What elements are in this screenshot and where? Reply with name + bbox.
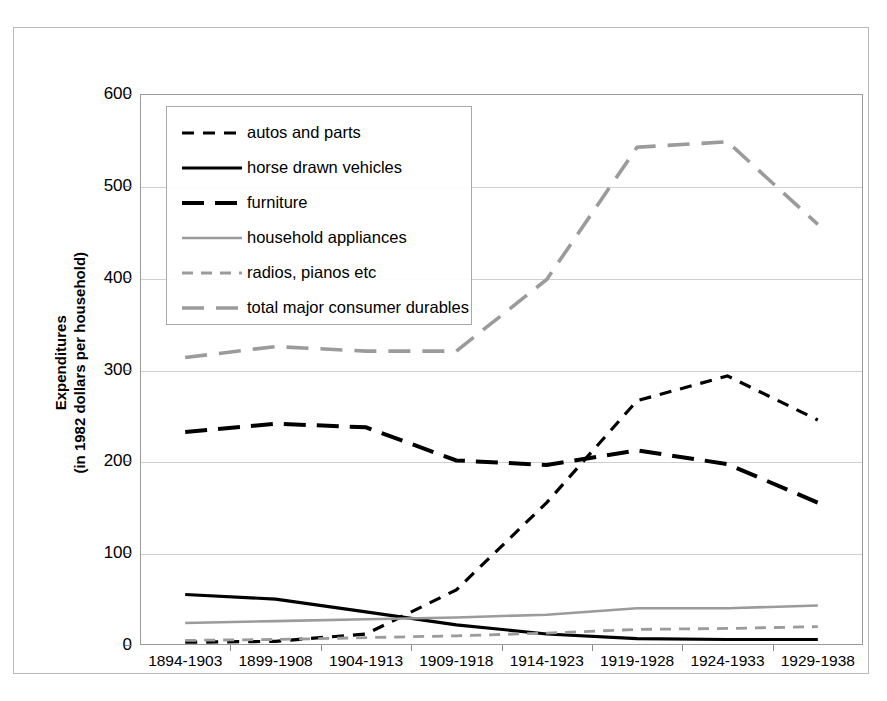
x-axis-tick-mark xyxy=(773,645,774,651)
y-axis-tick-label: 100 xyxy=(72,543,132,563)
x-axis-labels: 1894-19031899-19081904-19131909-19181914… xyxy=(140,652,863,682)
gridline xyxy=(141,462,862,463)
x-axis-tick-marks xyxy=(140,645,863,652)
legend-label: autos and parts xyxy=(247,123,361,142)
legend-label: total major consumer durables xyxy=(247,298,469,317)
chart-legend: autos and partshorse drawn vehiclesfurni… xyxy=(166,106,472,325)
legend-swatch-icon xyxy=(181,232,243,244)
y-axis-tick-mark xyxy=(125,370,132,371)
figure-container: Expenditures (in 1982 dollars per househ… xyxy=(13,27,869,674)
gridline xyxy=(141,554,862,555)
y-axis-tick-label: 0 xyxy=(72,635,132,655)
legend-item: total major consumer durables xyxy=(167,290,471,325)
legend-item: household appliances xyxy=(167,220,471,255)
legend-label: furniture xyxy=(247,193,308,212)
legend-item: furniture xyxy=(167,185,471,220)
x-axis-tick-mark xyxy=(502,645,503,651)
legend-swatch-icon xyxy=(181,127,243,139)
legend-swatch-icon xyxy=(181,302,243,314)
gridline xyxy=(141,371,862,372)
x-axis-tick-label: 1929-1938 xyxy=(781,652,855,670)
y-axis-tick-mark xyxy=(125,553,132,554)
x-axis-tick-label: 1919-1928 xyxy=(600,652,674,670)
y-axis-tick-mark xyxy=(125,94,132,95)
x-axis-tick-mark xyxy=(321,645,322,651)
x-axis-tick-mark xyxy=(411,645,412,651)
y-axis-tick-mark xyxy=(125,186,132,187)
x-axis-tick-mark xyxy=(230,645,231,651)
legend-swatch-icon xyxy=(181,197,243,209)
x-axis-tick-mark xyxy=(682,645,683,651)
legend-label: radios, pianos etc xyxy=(247,263,376,282)
x-axis-tick-label: 1924-1933 xyxy=(690,652,764,670)
x-axis-tick-label: 1899-1908 xyxy=(239,652,313,670)
legend-item: radios, pianos etc xyxy=(167,255,471,290)
y-axis-tick-label: 300 xyxy=(72,360,132,380)
x-axis-tick-label: 1894-1903 xyxy=(148,652,222,670)
legend-label: household appliances xyxy=(247,228,407,247)
y-axis-tick-label: 200 xyxy=(72,451,132,471)
x-axis-tick-label: 1914-1923 xyxy=(510,652,584,670)
legend-swatch-icon xyxy=(181,162,243,174)
y-axis-tick-mark xyxy=(125,278,132,279)
y-axis-tick-mark xyxy=(125,645,132,646)
x-axis-tick-label: 1904-1913 xyxy=(329,652,403,670)
legend-item: horse drawn vehicles xyxy=(167,150,471,185)
y-axis-tick-label: 600 xyxy=(72,84,132,104)
legend-label: horse drawn vehicles xyxy=(247,158,402,177)
x-axis-tick-mark xyxy=(592,645,593,651)
y-axis-tick-label: 400 xyxy=(72,268,132,288)
legend-swatch-icon xyxy=(181,267,243,279)
legend-item: autos and parts xyxy=(167,115,471,150)
y-axis-tick-label: 500 xyxy=(72,176,132,196)
y-axis-ticks: 0100200300400500600 xyxy=(60,94,132,645)
x-axis-tick-label: 1909-1918 xyxy=(419,652,493,670)
y-axis-tick-mark xyxy=(125,461,132,462)
